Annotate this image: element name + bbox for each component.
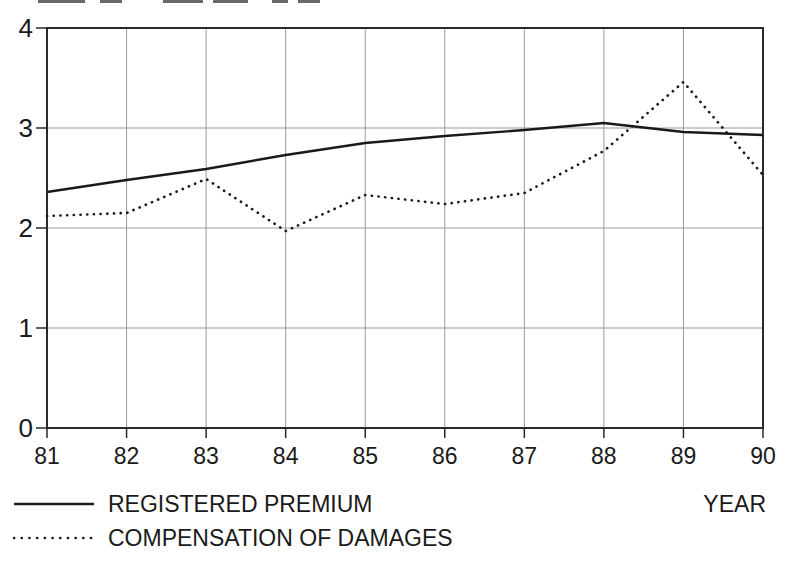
x-tick-label: 88 [591, 443, 617, 469]
chart-figure: 0123481828384858687888990 REGISTERED PRE… [0, 0, 790, 562]
x-tick-label: 86 [432, 443, 458, 469]
horizontal-gridlines [47, 128, 763, 328]
x-tick-label: 87 [512, 443, 538, 469]
x-axis-labels: 81828384858687888990 [34, 443, 776, 469]
legend-row-registered-premium: REGISTERED PREMIUM [13, 487, 453, 521]
legend-label-compensation-of-damages: COMPENSATION OF DAMAGES [108, 525, 453, 552]
y-tick-label: 3 [19, 113, 33, 143]
x-tick-label: 84 [273, 443, 299, 469]
axis-ticks [36, 28, 763, 438]
series-line-compensation-of-damages [47, 82, 763, 231]
x-tick-label: 90 [750, 443, 776, 469]
line-chart-plot: 0123481828384858687888990 [0, 0, 790, 472]
legend-label-registered-premium: REGISTERED PREMIUM [108, 491, 373, 518]
x-tick-label: 81 [34, 443, 60, 469]
x-tick-label: 85 [352, 443, 378, 469]
series-line-registered-premium [47, 123, 763, 192]
y-tick-label: 0 [19, 413, 33, 443]
chart-legend: REGISTERED PREMIUM COMPENSATION OF DAMAG… [13, 487, 453, 555]
dotted-line-swatch-icon [13, 534, 95, 542]
x-axis-title: YEAR [703, 491, 766, 518]
y-tick-label: 2 [19, 213, 33, 243]
y-tick-label: 4 [19, 13, 33, 43]
x-tick-label: 82 [114, 443, 140, 469]
x-tick-label: 83 [193, 443, 219, 469]
y-axis-labels: 01234 [19, 13, 33, 443]
y-tick-label: 1 [19, 313, 33, 343]
legend-row-compensation-of-damages: COMPENSATION OF DAMAGES [13, 521, 453, 555]
solid-line-swatch-icon [13, 500, 95, 508]
x-tick-label: 89 [671, 443, 697, 469]
